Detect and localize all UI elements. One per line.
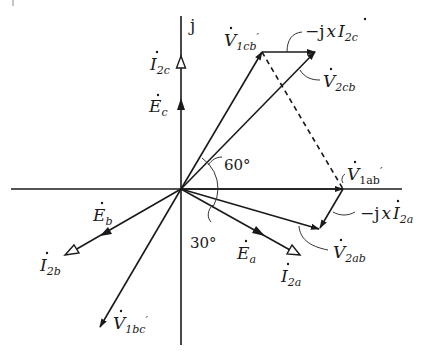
leader-v-2ab: [299, 226, 328, 250]
label-drop-c: −jxI2c: [305, 18, 366, 44]
svg-text:I2c: I2c: [149, 54, 170, 77]
svg-text:−jxI2c: −jxI2c: [305, 21, 358, 44]
svg-text:Ea: Ea: [236, 243, 256, 266]
svg-text:Eb: Eb: [92, 205, 112, 228]
svg-text:V2ab: V2ab: [333, 242, 366, 265]
leader-v-1ab: [342, 174, 345, 183]
i-2b-hollow-arrowhead-icon: [65, 245, 79, 255]
svg-text:I2b: I2b: [39, 255, 61, 278]
label-e-a: Ea: [236, 240, 256, 266]
e-a-arrowhead-icon: [252, 226, 265, 236]
label-i-2b: I2b: [39, 252, 61, 278]
svg-text:V2cb: V2cb: [323, 71, 355, 94]
label-i-2c: I2c: [149, 51, 170, 77]
svg-text:Ec: Ec: [148, 96, 168, 119]
leader-drop-c: [287, 32, 302, 52]
label-e-c: Ec: [148, 94, 168, 119]
svg-text:I2a: I2a: [280, 266, 301, 289]
label-v-1cb: V1cb′: [224, 27, 259, 53]
svg-text:V1bc′: V1bc′: [113, 313, 148, 336]
label-drop-a: −jxI2a: [360, 200, 413, 226]
angle-label-60: 60°: [224, 156, 251, 174]
angle-label-30: 30°: [190, 234, 217, 252]
svg-text:−jxI2a: −jxI2a: [360, 203, 413, 226]
svg-text:V1ab′: V1ab′: [347, 164, 383, 187]
i-2a-hollow-arrowhead-icon: [287, 245, 300, 255]
leader-drop-a: [333, 212, 355, 215]
v-2ab-vector: [181, 189, 319, 229]
i-2b-vector: [75, 189, 181, 250]
label-i-2a: I2a: [280, 263, 301, 289]
label-v-1bc: V1bc′: [113, 310, 148, 336]
v-1bc-vector: [100, 189, 181, 327]
drop-a-vector: [320, 189, 343, 228]
i-2c-hollow-arrowhead-icon: [177, 56, 186, 68]
leader-30: [208, 205, 213, 222]
svg-text:V1cb′: V1cb′: [224, 30, 259, 53]
e-c-arrowhead-icon: [177, 98, 185, 110]
phasor-diagram: j I2c Ec V1cb′ −jxI2c V2cb 60° V1ab′: [0, 0, 422, 358]
label-e-b: Eb: [92, 202, 112, 228]
label-v-2cb: V2cb: [323, 68, 355, 94]
e-b-arrowhead-icon: [100, 227, 112, 236]
label-v-2ab: V2ab: [333, 239, 366, 265]
imaginary-axis-label: j: [188, 15, 195, 35]
label-v-1ab: V1ab′: [347, 161, 383, 187]
leader-v-2cb: [300, 70, 320, 80]
